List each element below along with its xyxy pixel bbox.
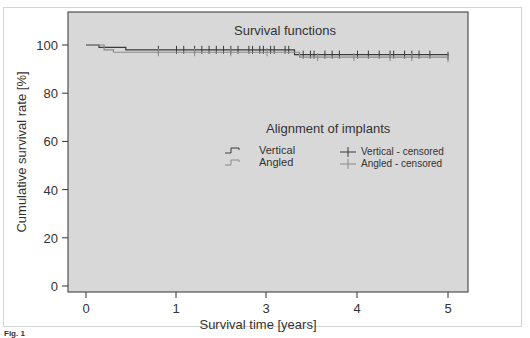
- x-tick-label: 0: [82, 301, 89, 316]
- x-axis: 01345: [82, 292, 451, 316]
- figure-caption: Fig. 1: [4, 329, 25, 338]
- x-axis-label: Survival time [years]: [199, 317, 316, 332]
- chart-title: Survival functions: [234, 23, 336, 38]
- legend-vertical-censored-label: Vertical - censored: [361, 146, 444, 157]
- legend-angled-label: Angled: [259, 156, 293, 168]
- x-tick-label: 3: [262, 301, 269, 316]
- y-tick-label: 60: [44, 134, 58, 149]
- y-tick-label: 80: [44, 86, 58, 101]
- y-tick-label: 20: [44, 231, 58, 246]
- y-tick-label: 100: [36, 38, 58, 53]
- x-tick-label: 5: [444, 301, 451, 316]
- y-tick-label: 40: [44, 183, 58, 198]
- y-axis-label: Cumulative survival rate [%]: [14, 71, 29, 232]
- legend-vertical-label: Vertical: [259, 144, 295, 156]
- x-tick-label: 4: [353, 301, 360, 316]
- y-tick-label: 0: [51, 279, 58, 294]
- legend-angled-censored-label: Angled - censored: [361, 158, 442, 169]
- x-tick-label: 1: [172, 301, 179, 316]
- legend-title: Alignment of implants: [266, 121, 391, 136]
- y-axis: 020406080100: [36, 38, 68, 294]
